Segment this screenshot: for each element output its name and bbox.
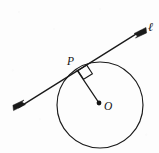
tangent-circle-diagram: Tangent line to a circle at point P P O … bbox=[0, 0, 159, 153]
label-point-p: P bbox=[66, 55, 74, 67]
center-point-dot bbox=[97, 101, 102, 106]
arrow-head-upper-right-icon bbox=[134, 28, 147, 39]
arrow-head-lower-left-icon bbox=[13, 100, 26, 111]
label-center-o: O bbox=[104, 100, 113, 112]
geometry-figure-container: Tangent line to a circle at point P P O … bbox=[0, 0, 159, 153]
label-line-l: ℓ bbox=[148, 20, 153, 34]
